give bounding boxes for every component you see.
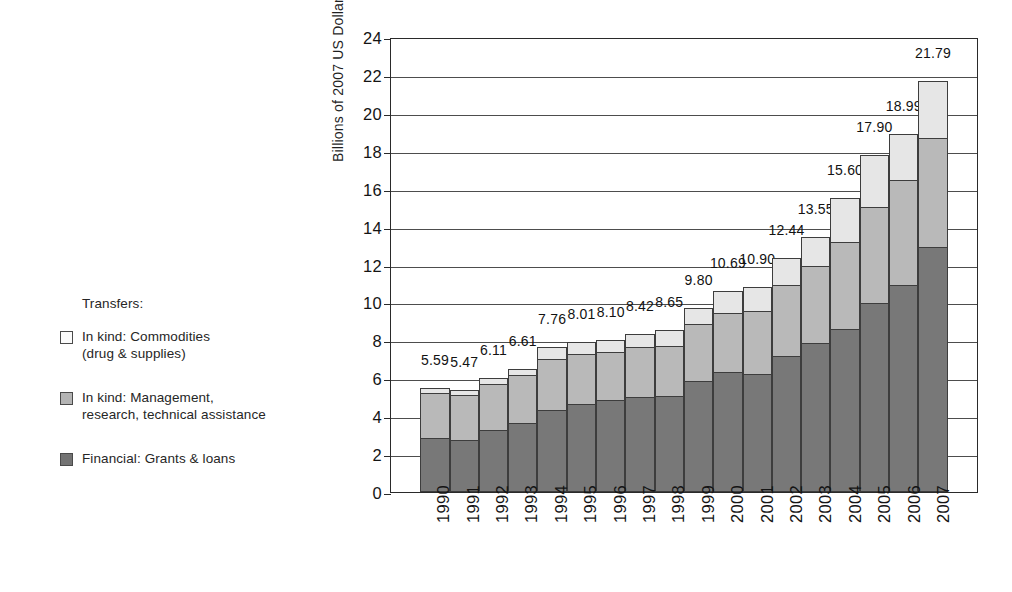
bar-segment-management[interactable]	[743, 311, 772, 375]
bar-segment-financial[interactable]	[772, 356, 801, 493]
bar-value-label: 5.47	[450, 354, 478, 371]
bar-segment-management[interactable]	[479, 384, 508, 431]
bar-segment-financial[interactable]	[860, 303, 889, 492]
stacked-bar[interactable]	[479, 376, 508, 492]
stacked-bar[interactable]	[830, 196, 859, 492]
legend-swatch-management	[60, 392, 73, 405]
bar-segment-management[interactable]	[655, 346, 684, 397]
bar-segment-financial[interactable]	[596, 400, 625, 492]
stacked-bar[interactable]	[889, 132, 918, 492]
legend-item-commodities: In kind: Commodities (drug & supplies)	[60, 329, 330, 362]
legend-label-management: In kind: Management, research, technical…	[82, 390, 266, 423]
bar-segment-financial[interactable]	[537, 410, 566, 492]
bar-segment-financial[interactable]	[655, 396, 684, 492]
x-tick-slot: 1992	[478, 498, 507, 592]
bar-segment-management[interactable]	[625, 347, 654, 398]
legend-label-management-line1: In kind: Management,	[82, 390, 214, 405]
bar-segment-management[interactable]	[801, 266, 830, 344]
y-tick-mark	[384, 115, 391, 116]
bar-segment-commodities[interactable]	[830, 198, 859, 243]
bar-slot: 18.99	[889, 39, 918, 492]
x-tick-slot: 1998	[655, 498, 684, 592]
stacked-bar[interactable]	[801, 235, 830, 492]
bar-segment-commodities[interactable]	[537, 347, 566, 360]
bar-segment-financial[interactable]	[508, 423, 537, 492]
bar-segment-management[interactable]	[830, 242, 859, 330]
y-tick-label: 14	[363, 218, 382, 237]
bar-segment-management[interactable]	[889, 180, 918, 286]
bar-segment-management[interactable]	[684, 324, 713, 382]
bar-slot: 21.79	[918, 39, 947, 492]
bar-value-label: 18.99	[886, 98, 922, 115]
chart-page: Transfers: In kind: Commodities (drug & …	[0, 0, 1012, 592]
bar-segment-financial[interactable]	[625, 397, 654, 492]
bar-segment-management[interactable]	[918, 138, 947, 249]
bar-value-label: 6.61	[509, 333, 537, 350]
bar-segment-commodities[interactable]	[655, 330, 684, 347]
stacked-bar[interactable]	[625, 332, 654, 492]
stacked-bar[interactable]	[772, 256, 801, 492]
legend-label-commodities: In kind: Commodities (drug & supplies)	[82, 329, 210, 362]
y-tick-mark	[384, 304, 391, 305]
bar-segment-commodities[interactable]	[625, 334, 654, 348]
bar-segment-financial[interactable]	[567, 404, 596, 492]
bar-segment-management[interactable]	[450, 395, 479, 441]
stacked-bar[interactable]	[655, 328, 684, 492]
stacked-bar[interactable]	[420, 386, 449, 492]
bar-segment-management[interactable]	[420, 393, 449, 439]
bar-segment-commodities[interactable]	[860, 155, 889, 208]
bar-slot: 10.69	[713, 39, 742, 492]
bar-value-label: 17.90	[856, 119, 892, 136]
stacked-bar[interactable]	[567, 340, 596, 492]
bar-segment-financial[interactable]	[420, 438, 449, 492]
bar-segment-management[interactable]	[537, 359, 566, 411]
legend-item-financial: Financial: Grants & loans	[60, 451, 330, 468]
stacked-bar[interactable]	[743, 285, 772, 492]
bar-segment-commodities[interactable]	[801, 237, 830, 267]
bar-segment-management[interactable]	[567, 354, 596, 405]
bar-slot-empty	[948, 39, 977, 492]
bar-segment-financial[interactable]	[479, 430, 508, 492]
stacked-bar[interactable]	[713, 289, 742, 492]
bar-segment-financial[interactable]	[918, 247, 947, 492]
y-tick-label: 8	[373, 332, 382, 351]
bar-segment-financial[interactable]	[713, 372, 742, 492]
bar-segment-commodities[interactable]	[889, 134, 918, 181]
legend-label-financial-line1: Financial: Grants & loans	[82, 451, 235, 466]
stacked-bar[interactable]	[537, 345, 566, 492]
y-tick-mark	[384, 380, 391, 381]
stacked-bar[interactable]	[450, 388, 479, 492]
bar-segment-financial[interactable]	[801, 343, 830, 492]
bar-segment-commodities[interactable]	[684, 308, 713, 325]
stacked-bar[interactable]	[918, 79, 947, 492]
bar-value-label: 13.55	[798, 201, 834, 218]
stacked-bar[interactable]	[684, 306, 713, 492]
x-tick-slot: 1994	[537, 498, 566, 592]
stacked-bar[interactable]	[596, 338, 625, 492]
y-tick-label: 12	[363, 256, 382, 275]
bar-segment-management[interactable]	[596, 352, 625, 401]
x-tick-slot: 2003	[802, 498, 831, 592]
y-tick-label: 10	[363, 294, 382, 313]
x-tick-slot: 1995	[566, 498, 595, 592]
x-tick-slot: 2002	[772, 498, 801, 592]
bar-segment-financial[interactable]	[684, 381, 713, 492]
y-tick-label: 2	[373, 446, 382, 465]
x-tick-slot-empty	[949, 498, 978, 592]
bar-segment-management[interactable]	[508, 375, 537, 423]
bar-segment-commodities[interactable]	[713, 291, 742, 314]
stacked-bar[interactable]	[860, 153, 889, 492]
bar-segment-management[interactable]	[772, 285, 801, 356]
bar-segment-commodities[interactable]	[918, 81, 947, 139]
bar-value-label: 10.90	[739, 251, 775, 268]
bar-segment-commodities[interactable]	[743, 287, 772, 312]
bar-segment-financial[interactable]	[830, 329, 859, 492]
bar-segment-commodities[interactable]	[772, 258, 801, 286]
y-tick-label: 24	[363, 29, 382, 48]
stacked-bar[interactable]	[508, 367, 537, 492]
bar-segment-management[interactable]	[860, 207, 889, 305]
bar-segment-financial[interactable]	[889, 285, 918, 492]
bar-segment-management[interactable]	[713, 313, 742, 373]
bar-segment-financial[interactable]	[743, 374, 772, 492]
y-tick-mark	[384, 77, 391, 78]
